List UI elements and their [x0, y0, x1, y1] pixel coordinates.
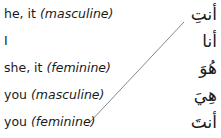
english-item[interactable]: you (feminine) [4, 111, 95, 133]
arabic-item[interactable]: أنا [202, 30, 217, 52]
arabic-item[interactable]: أنتَ [191, 111, 217, 133]
arabic-item[interactable]: هُوَ [199, 57, 217, 79]
english-item[interactable]: I [4, 30, 8, 52]
english-item[interactable]: she, it (feminine) [4, 57, 111, 79]
match-row: you (feminine) أنتَ [0, 111, 221, 133]
english-item[interactable]: you (masculine) [4, 84, 104, 106]
match-row: she, it (feminine) هُوَ [0, 57, 221, 79]
match-row: he, it (masculine) أنتِ [0, 3, 221, 25]
arabic-item[interactable]: هِيَ [194, 84, 217, 106]
arabic-item[interactable]: أنتِ [191, 3, 217, 25]
match-row: you (masculine) هِيَ [0, 84, 221, 106]
match-row: I أنا [0, 30, 221, 52]
english-item[interactable]: he, it (masculine) [4, 3, 113, 25]
